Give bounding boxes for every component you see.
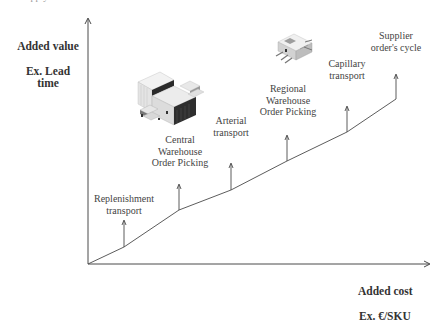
y-axis-label-line1: Added value <box>14 40 82 53</box>
arrow-up-icon <box>229 163 233 190</box>
arrow-up-icon <box>394 74 398 99</box>
step-label-replenishment: Replenishment transport <box>87 193 161 216</box>
step-label-central-warehouse: Central Warehouse Order Picking <box>145 134 215 169</box>
step-label-capillary: Capillary transport <box>321 58 373 81</box>
arrow-up-icon <box>345 106 349 132</box>
step-label-arterial: Arterial transport <box>205 115 257 138</box>
step-label-regional-warehouse: Regional Warehouse Order Picking <box>253 83 323 118</box>
x-axis <box>88 261 430 267</box>
x-axis-label-line1: Added cost <box>358 285 438 298</box>
arrow-up-icon <box>177 184 181 210</box>
arrow-up-icon <box>122 220 126 247</box>
x-axis-label: Added cost Ex. €/SKU <box>358 272 438 324</box>
regional-warehouse-building-icon <box>276 34 312 63</box>
y-axis-label-line2: Ex. Lead time <box>14 65 82 90</box>
central-warehouse-building-icon <box>138 72 204 125</box>
x-axis-label-line2: Ex. €/SKU <box>358 310 438 323</box>
arrow-up-icon <box>285 135 289 161</box>
y-axis-label: Added value Ex. Lead time <box>14 27 82 102</box>
y-axis <box>85 18 91 264</box>
step-label-supplier-cycle: Supplier order's cycle <box>364 30 428 53</box>
